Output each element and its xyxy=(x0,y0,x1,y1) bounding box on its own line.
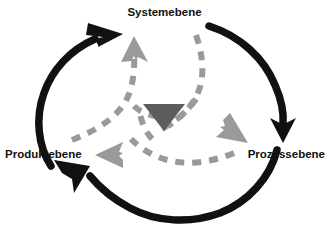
inner-arrowheads-group xyxy=(95,36,248,168)
outer-arc-path-1 xyxy=(39,39,95,166)
outer-arc-to-systemebene xyxy=(39,23,123,166)
node-label-produktebene: Produktebene xyxy=(5,148,82,161)
node-label-prozessebene: Prozessebene xyxy=(248,148,325,161)
outer-arrowhead-up-left xyxy=(54,160,90,193)
diagram-root: Systemebene Produktebene Prozessebene xyxy=(0,0,329,240)
inner-cycle-group xyxy=(72,35,234,163)
inner-arrowhead-up xyxy=(121,36,148,62)
inner-dashed-to-systemebene xyxy=(72,52,134,140)
inner-arrowhead-left xyxy=(95,142,123,168)
inner-dashed-to-produktebene xyxy=(131,139,234,163)
outer-arc-to-prozessebene xyxy=(209,26,296,143)
outer-arc-path-2 xyxy=(209,26,283,124)
cycle-diagram-svg xyxy=(0,0,329,240)
outer-arrowhead-down xyxy=(270,112,296,143)
node-label-systemebene: Systemebene xyxy=(127,6,201,19)
inner-arrowhead-down-right xyxy=(216,113,248,143)
